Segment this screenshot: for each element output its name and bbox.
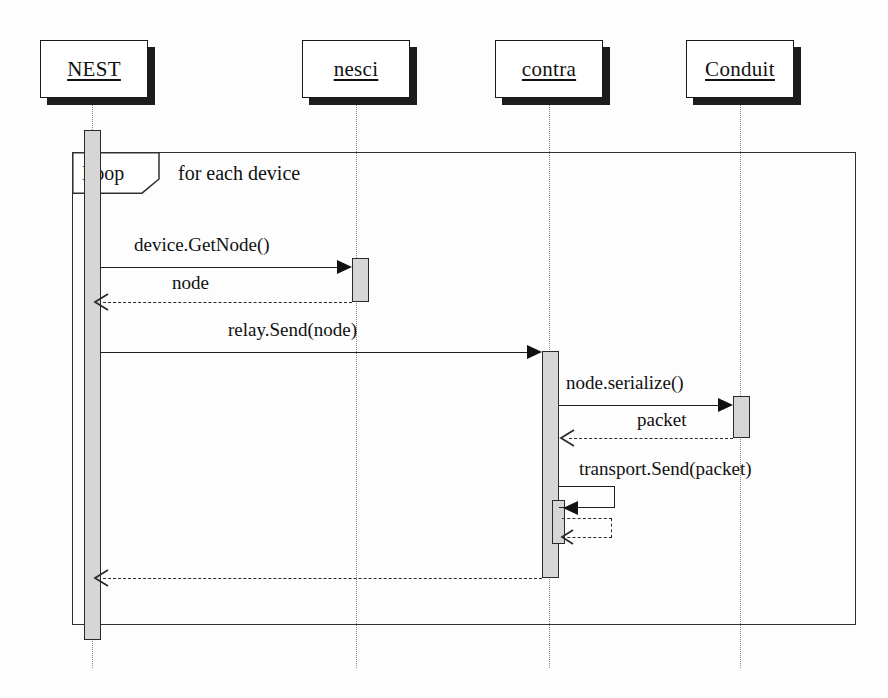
message-arrowhead-device-getnode xyxy=(337,260,352,274)
message-arrowhead-relay-send xyxy=(527,345,542,359)
message-arrowhead-node-serialize xyxy=(718,398,733,412)
message-arrowhead-node-return xyxy=(93,293,109,311)
message-arrowhead-packet-return xyxy=(559,429,575,447)
message-line-contra-nest-return xyxy=(103,578,542,579)
message-label-device-getnode: device.GetNode() xyxy=(134,234,270,256)
actor-box-contra[interactable]: contra xyxy=(495,40,603,98)
message-line-device-getnode xyxy=(101,267,337,268)
message-arrowhead-transport-return xyxy=(560,529,574,545)
message-label-transport-send: transport.Send(packet) xyxy=(579,458,752,480)
message-line-node-serialize xyxy=(559,405,718,406)
message-line-node-return xyxy=(103,302,352,303)
activation-bar-nesci xyxy=(352,258,369,302)
message-line-relay-send xyxy=(101,352,527,353)
message-label-node-return: node xyxy=(172,272,209,294)
actor-box-nesci[interactable]: nesci xyxy=(302,40,410,98)
activation-bar-conduit xyxy=(733,396,750,438)
loop-fragment-guard: for each device xyxy=(178,162,300,185)
message-label-node-serialize: node.serialize() xyxy=(566,372,684,394)
actor-label-contra: contra xyxy=(522,57,576,82)
message-line-packet-return xyxy=(569,438,733,439)
actor-label-nesci: nesci xyxy=(334,57,379,82)
sequence-diagram-canvas: NEST nesci contra Conduit Loop for each … xyxy=(0,0,888,698)
actor-box-nest[interactable]: NEST xyxy=(40,40,148,98)
actor-label-conduit: Conduit xyxy=(705,57,775,82)
message-arrowhead-transport-send xyxy=(563,501,578,515)
message-label-packet-return: packet xyxy=(637,409,687,431)
activation-bar-nest xyxy=(84,130,101,640)
loop-fragment-frame xyxy=(72,152,856,625)
message-arrowhead-contra-nest-return xyxy=(93,569,109,587)
actor-box-conduit[interactable]: Conduit xyxy=(686,40,794,98)
message-label-relay-send: relay.Send(node) xyxy=(228,319,357,341)
actor-label-nest: NEST xyxy=(67,57,121,82)
